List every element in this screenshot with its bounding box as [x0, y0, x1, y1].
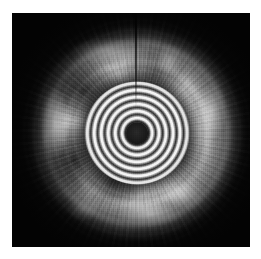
corner-vignette	[12, 13, 250, 247]
figure-root	[0, 0, 261, 259]
ultrasound-scan-frame[interactable]	[12, 13, 250, 247]
